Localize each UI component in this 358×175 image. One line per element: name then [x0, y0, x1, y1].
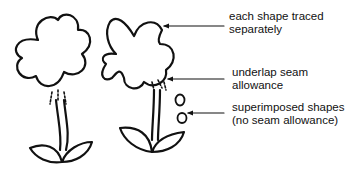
right-leaf-left [120, 128, 152, 152]
label-superimposed-line1: superimposed shapes [232, 101, 345, 114]
arrow-superimposed-icon [187, 111, 193, 116]
right-leaf-right [152, 132, 184, 152]
diagram-canvas: each shape traced separately underlap se… [0, 0, 358, 175]
label-underlap-line2: allowance [232, 79, 308, 92]
right-flower-head [102, 19, 173, 89]
left-stem [56, 100, 68, 150]
right-stem [152, 90, 160, 140]
superimposed-circle-top [176, 95, 185, 106]
superimposed-circle-bottom [178, 113, 187, 123]
left-flower-head [16, 15, 90, 86]
label-traced-line2: separately [229, 23, 324, 36]
leader-lines [164, 26, 224, 113]
arrow-traced-icon [163, 24, 169, 29]
label-traced-line1: each shape traced [229, 10, 324, 23]
arrow-underlap-icon [167, 77, 173, 82]
left-leaf-left [30, 145, 62, 162]
label-superimposed: superimposed shapes (no seam allowance) [232, 101, 345, 127]
label-traced: each shape traced separately [229, 10, 324, 36]
label-superimposed-line2: (no seam allowance) [232, 114, 345, 127]
label-underlap: underlap seam allowance [232, 66, 308, 92]
label-underlap-line1: underlap seam [232, 66, 308, 79]
